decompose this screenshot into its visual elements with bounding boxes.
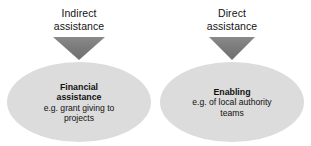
- node-title-line-1: Financial: [17, 82, 141, 92]
- node-detail-line-1: e.g. grant giving to: [17, 103, 141, 113]
- arrow-container-direct: [153, 37, 311, 60]
- branch-direct-assistance: Direct assistance Enabling e.g. of local: [153, 0, 311, 146]
- node-container-financial-assistance: Financial assistance e.g. grant giving t…: [0, 62, 158, 144]
- arrow-container-indirect: [0, 37, 158, 60]
- down-triangle-icon: [209, 37, 255, 60]
- caption-line-2: assistance: [0, 20, 158, 33]
- node-title-line-2: assistance: [17, 93, 141, 103]
- branch-caption-direct: Direct assistance: [153, 7, 311, 32]
- branch-caption-indirect: Indirect assistance: [0, 7, 158, 32]
- node-detail-line-2: teams: [170, 108, 294, 118]
- node-label-enabling: Enabling e.g. of local authority teams: [170, 87, 294, 118]
- node-detail-line-2: projects: [17, 113, 141, 123]
- caption-line-2: assistance: [153, 20, 311, 33]
- node-label-financial-assistance: Financial assistance e.g. grant giving t…: [17, 82, 141, 124]
- down-triangle-icon: [53, 37, 105, 60]
- node-detail-line-1: e.g. of local authority: [170, 98, 294, 108]
- branch-indirect-assistance: Indirect assistance Financial assistance: [0, 0, 158, 146]
- caption-line-1: Indirect: [0, 7, 158, 20]
- node-title-line-1: Enabling: [170, 87, 294, 97]
- diagram-canvas: Indirect assistance Financial assistance: [0, 0, 311, 146]
- node-container-enabling: Enabling e.g. of local authority teams: [153, 62, 311, 144]
- caption-line-1: Direct: [153, 7, 311, 20]
